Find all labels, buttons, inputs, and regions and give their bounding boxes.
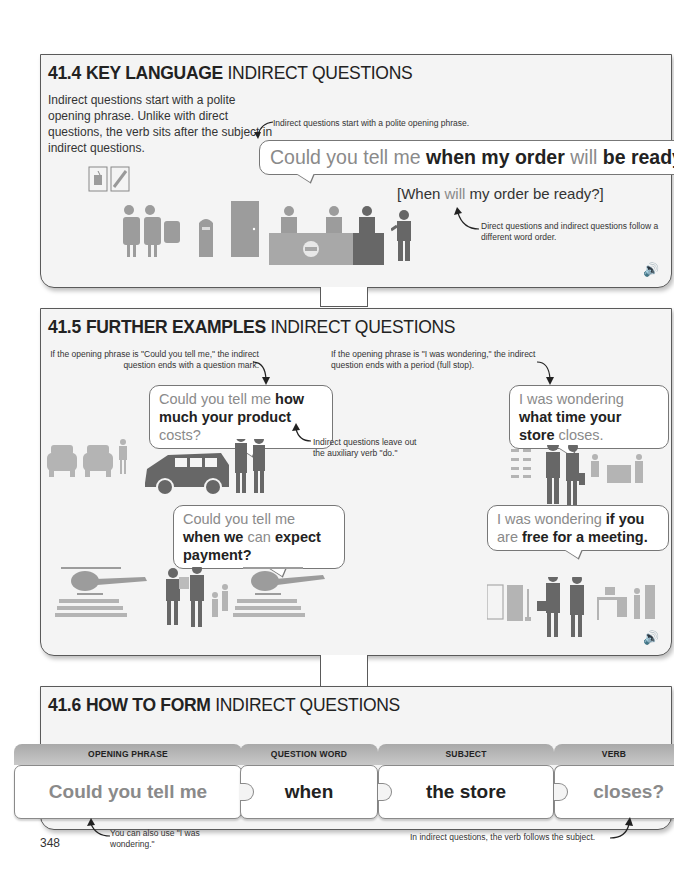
annotation-arrow — [86, 818, 112, 844]
annotation-auxiliary-do: Indirect questions leave out the auxilia… — [313, 437, 423, 459]
puzzle-text: Could you tell me — [14, 765, 242, 819]
parked-car — [83, 445, 113, 477]
annotation-arrow — [253, 119, 275, 141]
salesperson-small — [119, 439, 127, 474]
salesman — [253, 439, 265, 493]
puzzle-text: closes? — [554, 765, 674, 819]
checkout-area — [591, 454, 643, 483]
example-bubble-store-closes: I was wondering what time your store clo… — [509, 385, 669, 449]
annotation-arrow — [535, 359, 557, 387]
shoe-store-illustration — [511, 445, 671, 507]
parked-car — [47, 445, 77, 477]
puzzle-header: OPENING PHRASE — [14, 744, 242, 765]
businesswoman — [537, 577, 560, 637]
section-title-41-5: 41.5FURTHER EXAMPLES INDIRECT QUESTIONS — [48, 317, 455, 338]
helicopter — [61, 567, 147, 595]
counter-staff — [281, 206, 375, 233]
direct-question: [When will my order be ready?] — [397, 185, 604, 202]
helipad — [55, 599, 127, 617]
annotation-word-order: Direct questions and indirect questions … — [481, 221, 671, 243]
bystanders — [212, 584, 228, 617]
annotation-i-was-wondering: You can also use "I was wondering." — [110, 828, 200, 850]
annotation-period: If the opening phrase is "I was wonderin… — [331, 349, 551, 371]
panel-connector — [320, 655, 368, 687]
customer-figure — [391, 210, 421, 262]
annotation-verb-follows-subject: In indirect questions, the verb follows … — [410, 832, 595, 843]
puzzle-piece-opening-phrase: OPENING PHRASE Could you tell me — [14, 744, 242, 820]
seated-customers — [123, 205, 180, 257]
buyer — [166, 568, 180, 625]
office-desk — [597, 587, 627, 620]
helipad — [233, 599, 305, 617]
puzzle-piece-verb: VERB closes? — [554, 744, 674, 820]
example-bubble-free-meeting: I was wondering if you are free for a me… — [487, 505, 669, 551]
annotation-arrow — [608, 816, 636, 844]
water-cooler — [634, 585, 655, 619]
key-language-panel: 41.4KEY LANGUAGE INDIRECT QUESTIONS Indi… — [40, 54, 672, 288]
puzzle-header: VERB — [554, 744, 674, 765]
puzzle-knob — [554, 783, 568, 801]
hotdog-sign-icon — [111, 167, 129, 191]
section-title-41-4: 41.4KEY LANGUAGE INDIRECT QUESTIONS — [48, 63, 412, 84]
businessman — [570, 577, 584, 637]
panel-connector — [320, 287, 368, 307]
section-title-41-6: 41.6HOW TO FORM INDIRECT QUESTIONS — [48, 695, 400, 716]
helicopter — [243, 567, 325, 595]
puzzle-header: SUBJECT — [378, 744, 554, 765]
puzzle-header: QUESTION WORD — [240, 744, 378, 765]
plant — [525, 589, 531, 621]
suv — [145, 453, 229, 496]
intro-text: Indirect questions start with a polite o… — [48, 92, 278, 156]
drink-sign-icon — [89, 167, 107, 191]
office-door — [487, 585, 523, 621]
annotation-question-mark: If the opening phrase is "Could you tell… — [31, 349, 259, 371]
further-examples-panel: 41.5FURTHER EXAMPLES INDIRECT QUESTIONS … — [40, 308, 672, 656]
puzzle-piece-subject: SUBJECT the store — [378, 744, 554, 820]
customer-shopper — [566, 445, 585, 505]
puzzle-knob — [378, 783, 392, 801]
car-dealership-illustration — [43, 439, 303, 505]
counter — [269, 233, 384, 265]
door — [231, 201, 259, 257]
puzzle-text: when — [240, 765, 378, 819]
page-number: 348 — [40, 836, 60, 850]
helicopter-sales-illustration — [55, 567, 375, 637]
audio-speaker-icon[interactable]: 🔊 — [643, 262, 659, 277]
audio-speaker-icon[interactable]: 🔊 — [643, 630, 659, 645]
annotation-arrow — [251, 359, 273, 387]
puzzle-text: the store — [378, 765, 554, 819]
puzzle-knob — [240, 783, 254, 801]
trash-bin — [199, 219, 213, 257]
fast-food-restaurant-illustration — [49, 165, 384, 265]
clerk — [546, 445, 560, 504]
puzzle-piece-question-word: QUESTION WORD when — [240, 744, 378, 820]
shoe-display — [511, 449, 531, 478]
annotation-arrow — [451, 205, 481, 235]
seller — [179, 567, 204, 627]
bubble-tail — [566, 543, 583, 560]
customer-woman — [235, 439, 247, 493]
example-bubble-expect-payment: Could you tell me when we can expect pay… — [173, 505, 345, 569]
annotation-polite-phrase: Indirect questions start with a polite o… — [273, 118, 469, 129]
